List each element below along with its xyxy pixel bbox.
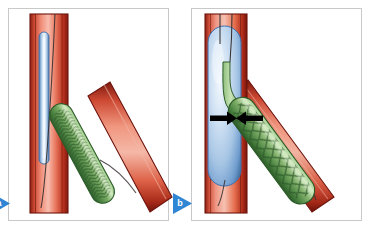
figure-container: a: [0, 0, 370, 229]
medical-illustration: a: [0, 0, 370, 229]
panel-b: [192, 9, 362, 221]
marker-b-letter: b: [177, 198, 183, 208]
marker-b: b: [173, 193, 192, 214]
panel-a: a: [0, 9, 172, 221]
